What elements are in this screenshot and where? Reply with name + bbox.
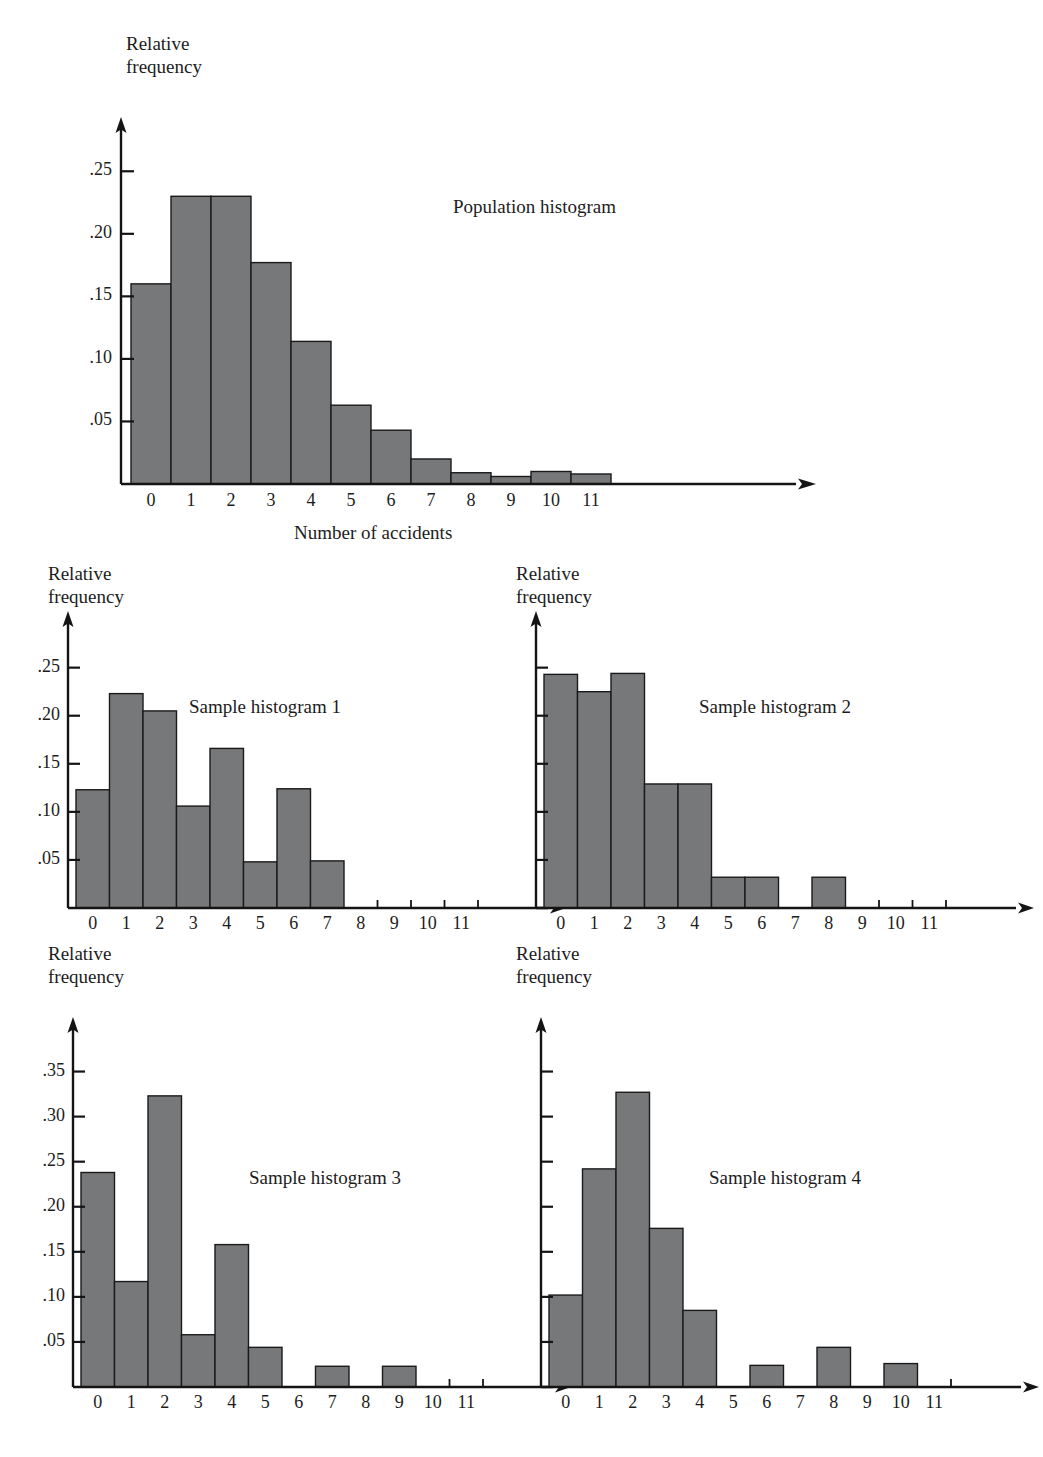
histogram-svg	[0, 0, 1043, 1393]
x-tick-label: 11	[914, 1392, 954, 1413]
histogram-bar	[683, 1310, 717, 1387]
histogram-bar	[650, 1228, 684, 1387]
histogram-bar	[616, 1092, 650, 1387]
histogram-bar	[583, 1169, 617, 1387]
histogram-bar	[549, 1295, 583, 1387]
histogram-bar	[750, 1365, 784, 1387]
plot-area: 01234567891011	[0, 0, 1043, 1393]
bars-group	[549, 1092, 918, 1387]
histogram-bar	[817, 1347, 851, 1387]
histogram-bar	[884, 1364, 918, 1387]
x-axis-arrowhead	[1023, 1382, 1039, 1393]
